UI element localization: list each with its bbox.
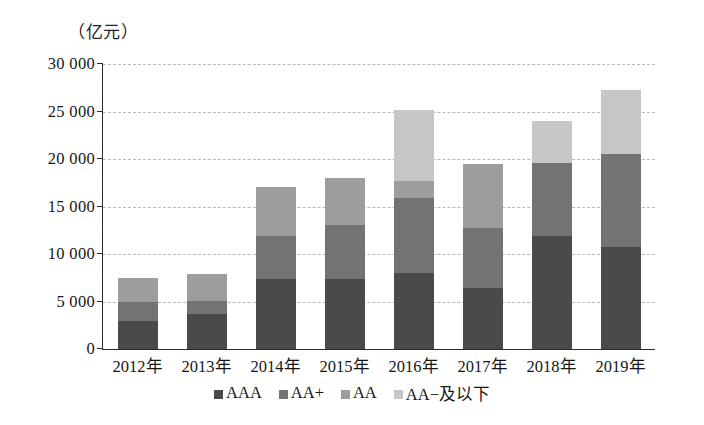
y-axis-tick-label: 25 000: [48, 102, 95, 122]
bar-segment[interactable]: [532, 163, 572, 236]
x-axis-tick-label: 2019年: [596, 353, 646, 377]
stacked-bar-chart: （亿元） 05 00010 00015 00020 00025 00030 00…: [0, 0, 704, 425]
x-axis-tick-label: 2014年: [251, 353, 301, 377]
bar-segment[interactable]: [187, 301, 227, 314]
bar-segment[interactable]: [187, 314, 227, 349]
bar-segment[interactable]: [325, 225, 365, 279]
bar-series-container: [103, 64, 655, 349]
bar-group[interactable]: [463, 64, 503, 349]
bar-segment[interactable]: [256, 187, 296, 236]
plot-area: [103, 64, 655, 349]
legend-item[interactable]: AA+: [279, 383, 324, 403]
bar-segment[interactable]: [463, 228, 503, 288]
bar-segment[interactable]: [256, 236, 296, 279]
bar-segment[interactable]: [118, 302, 158, 322]
y-axis-tick-label: 20 000: [48, 149, 95, 169]
bar-segment[interactable]: [601, 90, 641, 155]
bar-segment[interactable]: [394, 110, 434, 181]
bar-segment[interactable]: [118, 278, 158, 302]
bar-segment[interactable]: [532, 121, 572, 163]
bar-group[interactable]: [187, 64, 227, 349]
x-axis-tick-label: 2016年: [389, 353, 439, 377]
bar-group[interactable]: [394, 64, 434, 349]
bar-segment[interactable]: [325, 178, 365, 225]
y-axis-tick-label: 0: [86, 339, 95, 359]
bar-group[interactable]: [256, 64, 296, 349]
legend-swatch-icon: [394, 390, 403, 399]
bar-segment[interactable]: [463, 164, 503, 229]
bar-segment[interactable]: [256, 279, 296, 349]
bar-segment[interactable]: [187, 274, 227, 301]
bar-group[interactable]: [601, 64, 641, 349]
bar-group[interactable]: [118, 64, 158, 349]
legend-swatch-icon: [279, 390, 288, 399]
legend-label: AA−及以下: [406, 381, 490, 405]
legend-item[interactable]: AA: [341, 383, 377, 403]
x-axis-tick-label: 2015年: [320, 353, 370, 377]
legend-item[interactable]: AAA: [214, 383, 262, 403]
bar-segment[interactable]: [463, 288, 503, 349]
bar-segment[interactable]: [118, 321, 158, 349]
bar-segment[interactable]: [601, 154, 641, 247]
bar-segment[interactable]: [394, 273, 434, 349]
bar-segment[interactable]: [394, 198, 434, 273]
legend-swatch-icon: [341, 390, 350, 399]
y-axis-tick-label: 15 000: [48, 197, 95, 217]
x-axis-tick-label: 2018年: [527, 353, 577, 377]
y-axis-tick-label: 5 000: [56, 292, 95, 312]
x-axis-tick-label: 2013年: [182, 353, 232, 377]
y-axis-unit-label: （亿元）: [68, 18, 138, 43]
y-axis-tick-label: 10 000: [48, 244, 95, 264]
legend-swatch-icon: [214, 390, 223, 399]
x-axis-tick-label: 2017年: [458, 353, 508, 377]
bar-segment[interactable]: [532, 236, 572, 349]
y-axis-tick-label: 30 000: [48, 54, 95, 74]
bar-segment[interactable]: [601, 247, 641, 349]
legend-label: AAA: [226, 383, 262, 403]
bar-segment[interactable]: [325, 279, 365, 349]
chart-legend: AAAAA+AAAA−及以下: [0, 381, 704, 405]
legend-label: AA: [353, 383, 377, 403]
bar-group[interactable]: [325, 64, 365, 349]
x-axis-tick-label: 2012年: [113, 353, 163, 377]
bar-group[interactable]: [532, 64, 572, 349]
legend-label: AA+: [291, 383, 324, 403]
legend-item[interactable]: AA−及以下: [394, 381, 490, 405]
axis-baseline: [103, 349, 655, 350]
bar-segment[interactable]: [394, 181, 434, 198]
